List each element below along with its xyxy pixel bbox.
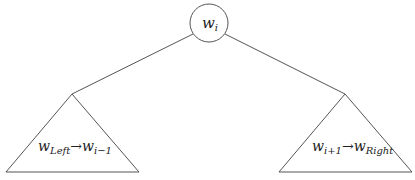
svg-text:wi+1→wRight: wi+1→wRight (312, 138, 394, 156)
edge-root-left (72, 34, 193, 94)
left-to-base: w (82, 138, 94, 154)
left-to-sub: i−1 (94, 145, 112, 156)
root-node: wi (190, 4, 228, 42)
tree-diagram: wi wLeft→wi−1 wi+1→wRight (0, 0, 415, 180)
right-to-sub: Right (365, 145, 395, 156)
right-from-base: w (312, 138, 324, 154)
left-arrow: → (70, 138, 82, 154)
left-from-base: w (38, 138, 50, 154)
left-subtree: wLeft→wi−1 (6, 94, 139, 172)
root-label-base: w (202, 14, 215, 32)
right-to-base: w (354, 138, 366, 154)
right-arrow: → (342, 138, 354, 154)
right-subtree: wi+1→wRight (279, 94, 412, 172)
left-from-sub: Left (49, 145, 71, 156)
edge-root-right (225, 34, 345, 94)
svg-text:wLeft→wi−1: wLeft→wi−1 (38, 138, 112, 156)
root-label-sub: i (215, 22, 218, 33)
right-from-sub: i+1 (324, 145, 342, 156)
